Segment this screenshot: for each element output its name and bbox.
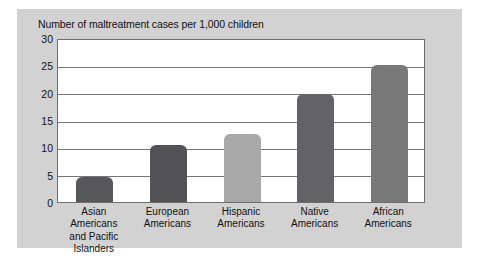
x-tick-label-line: Americans xyxy=(131,218,205,230)
x-tick-label: NativeAmericans xyxy=(278,206,352,231)
plot-area xyxy=(57,39,425,203)
chart-figure: Number of maltreatment cases per 1,000 c… xyxy=(0,0,479,261)
x-tick-label-line: Islanders xyxy=(57,243,131,255)
bar xyxy=(150,145,187,202)
bars-layer xyxy=(58,40,424,202)
y-tick-label: 30 xyxy=(23,33,53,45)
x-tick-label-line: European xyxy=(131,206,205,218)
x-tick-label-line: African xyxy=(351,206,425,218)
x-tick-label: EuropeanAmericans xyxy=(131,206,205,231)
x-tick-label: Asian Americansand PacificIslanders xyxy=(57,206,131,256)
x-tick-label-line: and Pacific xyxy=(57,231,131,243)
y-tick-label: 15 xyxy=(23,115,53,127)
bar xyxy=(224,134,261,202)
x-tick-label-line: Americans xyxy=(351,218,425,230)
x-tick-label: HispanicAmericans xyxy=(204,206,278,231)
x-tick-label-line: Hispanic xyxy=(204,206,278,218)
x-tick-label-line: Asian Americans xyxy=(57,206,131,231)
y-axis: 051015202530 xyxy=(17,39,53,203)
x-tick-label-line: Americans xyxy=(278,218,352,230)
bar xyxy=(371,65,408,202)
x-tick-label-line: Americans xyxy=(204,218,278,230)
y-tick-label: 5 xyxy=(23,170,53,182)
x-tick-label-line: Native xyxy=(278,206,352,218)
y-tick-label: 25 xyxy=(23,60,53,72)
y-tick-label: 10 xyxy=(23,142,53,154)
x-tick-label: AfricanAmericans xyxy=(351,206,425,231)
x-axis: Asian Americansand PacificIslandersEurop… xyxy=(57,206,425,252)
bar xyxy=(76,177,113,202)
chart-panel: Number of maltreatment cases per 1,000 c… xyxy=(17,9,462,248)
y-tick-label: 20 xyxy=(23,88,53,100)
chart-title: Number of maltreatment cases per 1,000 c… xyxy=(38,18,264,30)
y-tick-label: 0 xyxy=(23,197,53,209)
bar xyxy=(297,94,334,202)
